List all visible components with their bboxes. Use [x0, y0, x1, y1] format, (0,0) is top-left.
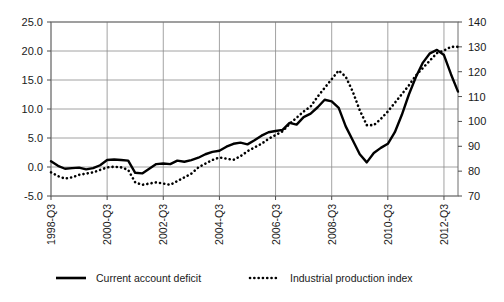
x-axis-tick-label: 2012-Q3: [438, 204, 450, 245]
legend-label-2: Industrial production index: [290, 272, 413, 284]
right-axis-tick-label: 110: [468, 91, 486, 103]
left-axis-tick-label: -5.0: [24, 190, 43, 202]
legend-label-1: Current account deficit: [96, 272, 201, 284]
right-axis-tick-label: 90: [468, 140, 480, 152]
right-axis-tick-label: 120: [468, 66, 486, 78]
left-axis-tick-label: 20.0: [22, 45, 43, 57]
right-axis-tick-label: 80: [468, 165, 480, 177]
x-axis-tick-label: 2000-Q3: [101, 204, 113, 245]
right-axis-tick-label: 100: [468, 115, 486, 127]
chart-figure: 25.020.015.010.05.00.0-5.0 1401301201101…: [0, 0, 504, 302]
x-axis-tick-label: 2008-Q3: [326, 204, 338, 245]
right-axis-tick-label: 130: [468, 41, 486, 53]
left-axis-tick-label: 0.0: [28, 161, 43, 173]
left-axis-tick-label: 15.0: [22, 74, 43, 86]
left-axis-tick-label: 10.0: [22, 103, 43, 115]
left-axis-tick-label: 25.0: [22, 16, 43, 28]
x-axis-tick-label: 1998-Q3: [45, 204, 57, 245]
x-axis-tick-label: 2010-Q3: [382, 204, 394, 245]
x-axis-tick-label: 2004-Q3: [213, 204, 225, 245]
right-axis-tick-label: 70: [468, 190, 480, 202]
chart-canvas: 25.020.015.010.05.00.0-5.0 1401301201101…: [0, 0, 504, 302]
right-axis-tick-label: 140: [468, 16, 486, 28]
left-axis-tick-label: 5.0: [28, 132, 43, 144]
x-axis-tick-label: 2006-Q3: [270, 204, 282, 245]
x-axis-tick-label: 2002-Q3: [157, 204, 169, 245]
chart-background: [0, 0, 504, 302]
